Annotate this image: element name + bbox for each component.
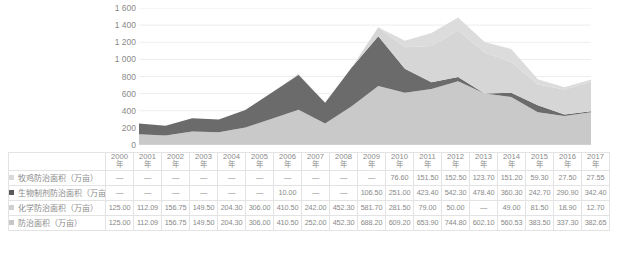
table-cell: 50.00: [442, 200, 470, 215]
table-cell: —: [190, 185, 218, 200]
y-axis-tick-label: 400: [122, 107, 136, 116]
y-axis-tick-label: 600: [122, 89, 136, 98]
table-cell: —: [246, 185, 274, 200]
table-cell: 688.20: [358, 215, 386, 230]
table-cell: 76.60: [386, 170, 414, 185]
table-cell: —: [162, 170, 190, 185]
y-axis-tick-label: 1 600: [115, 4, 136, 13]
chart-plot-area: [139, 8, 591, 145]
table-cell: 156.75: [162, 200, 190, 215]
table-cell: 59.30: [526, 170, 554, 185]
table-cell: 653.90: [414, 215, 442, 230]
table-cell: 106.50: [358, 185, 386, 200]
table-cell: 12.70: [582, 200, 610, 215]
table-cell: 342.40: [582, 185, 610, 200]
table-cell: 478.40: [470, 185, 498, 200]
table-column-header: 2006年: [274, 153, 302, 171]
table-cell: 242.70: [526, 185, 554, 200]
table-cell: 251.00: [386, 185, 414, 200]
legend-swatch-icon: [9, 220, 14, 225]
y-axis-tick-label: 1 000: [115, 55, 136, 64]
legend-item-0[interactable]: 牧鸡防治面积（万亩）: [9, 170, 106, 185]
table-column-header: 2001年: [134, 153, 162, 171]
table-cell: 242.00: [302, 200, 330, 215]
table-cell: —: [190, 170, 218, 185]
legend-swatch-icon: [9, 190, 14, 195]
table-cell: —: [302, 185, 330, 200]
y-axis-labels: 1 6001 4001 2001 0008006004002000: [96, 0, 136, 150]
table-cell: 609.20: [386, 215, 414, 230]
table-cell: 452.30: [330, 200, 358, 215]
table-cell: 79.00: [414, 200, 442, 215]
table-cell: 27.55: [582, 170, 610, 185]
table-column-header: 2003年: [190, 153, 218, 171]
chart-svg: [139, 8, 591, 145]
table-column-header: 2016年: [554, 153, 582, 171]
table-cell: 290.90: [554, 185, 582, 200]
legend-item-label: 防治面积（万亩）: [18, 219, 82, 228]
table-cell: 112.09: [134, 200, 162, 215]
y-axis-tick-label: 1 400: [115, 21, 136, 30]
table-cell: 151.20: [498, 170, 526, 185]
table-cell: —: [302, 170, 330, 185]
table-cell: 281.50: [386, 200, 414, 215]
table-cell: 360.30: [498, 185, 526, 200]
table-column-header: 2004年: [218, 153, 246, 171]
table-cell: 452.30: [330, 215, 358, 230]
table-cell: 125.00: [106, 200, 134, 215]
data-table-container: 2000年2001年2002年2003年2004年2005年2006年2007年…: [8, 152, 609, 247]
table-column-header: 2017年: [582, 153, 610, 171]
y-axis-tick-label: 1 200: [115, 38, 136, 47]
table-cell: —: [162, 185, 190, 200]
table-cell: 156.75: [162, 215, 190, 230]
table-cell: 410.50: [274, 200, 302, 215]
table-cell: 423.40: [414, 185, 442, 200]
legend-item-2[interactable]: 化学防治面积（万亩）: [9, 200, 106, 215]
table-row: 化学防治面积（万亩）125.00112.09156.75149.50204.30…: [9, 200, 610, 215]
table-cell: —: [358, 170, 386, 185]
table-row: 生物制剂防治面积（万亩）——————10.00——106.50251.00423…: [9, 185, 610, 200]
table-row: 防治面积（万亩）125.00112.09156.75149.50204.3030…: [9, 215, 610, 230]
table-cell: 560.53: [498, 215, 526, 230]
table-column-header: 2002年: [162, 153, 190, 171]
table-cell: —: [470, 200, 498, 215]
table-cell: —: [274, 170, 302, 185]
table-cell: —: [134, 170, 162, 185]
table-column-header: 2007年: [302, 153, 330, 171]
table-cell: 383.50: [526, 215, 554, 230]
table-cell: 149.50: [190, 200, 218, 215]
table-cell: 252.00: [302, 215, 330, 230]
y-axis-tick-label: 800: [122, 72, 136, 81]
table-cell: 149.50: [190, 215, 218, 230]
table-cell: 81.50: [526, 200, 554, 215]
table-cell: —: [106, 170, 134, 185]
legend-item-3[interactable]: 防治面积（万亩）: [9, 215, 106, 230]
table-cell: 27.50: [554, 170, 582, 185]
table-cell: —: [134, 185, 162, 200]
table-corner-cell: [9, 153, 106, 171]
table-cell: 10.00: [274, 185, 302, 200]
legend-item-1[interactable]: 生物制剂防治面积（万亩）: [9, 185, 106, 200]
data-table: 2000年2001年2002年2003年2004年2005年2006年2007年…: [8, 152, 610, 231]
table-column-header: 2015年: [526, 153, 554, 171]
table-cell: —: [330, 185, 358, 200]
table-cell: 151.50: [414, 170, 442, 185]
table-column-header: 2000年: [106, 153, 134, 171]
table-cell: 123.70: [470, 170, 498, 185]
table-header-row: 2000年2001年2002年2003年2004年2005年2006年2007年…: [9, 153, 610, 171]
table-cell: —: [330, 170, 358, 185]
legend-item-label: 生物制剂防治面积（万亩）: [18, 189, 106, 198]
table-column-header: 2008年: [330, 153, 358, 171]
table-column-header: 2011年: [414, 153, 442, 171]
table-column-header: 2005年: [246, 153, 274, 171]
y-axis-tick-label: 0: [131, 141, 136, 150]
table-cell: 542.30: [442, 185, 470, 200]
table-cell: 306.00: [246, 215, 274, 230]
legend-swatch-icon: [9, 205, 14, 210]
legend-swatch-icon: [9, 175, 14, 180]
table-cell: 306.00: [246, 200, 274, 215]
table-column-header: 2009年: [358, 153, 386, 171]
table-cell: 49.00: [498, 200, 526, 215]
y-axis-tick-label: 200: [122, 124, 136, 133]
table-column-header: 2014年: [498, 153, 526, 171]
